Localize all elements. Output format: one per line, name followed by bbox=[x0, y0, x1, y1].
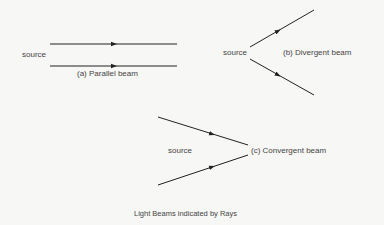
source-label-b: source bbox=[223, 48, 247, 57]
parallel-rays bbox=[50, 44, 177, 66]
ray-diagram-canvas bbox=[0, 0, 384, 225]
figure-caption: Light Beams indicated by Rays bbox=[134, 209, 237, 218]
panel-title-c: (c) Convergent beam bbox=[251, 146, 326, 155]
source-label-c: source bbox=[168, 146, 192, 155]
panel-title-b: (b) Divergent beam bbox=[283, 48, 351, 57]
panel-title-a: (a) Parallel beam bbox=[77, 69, 138, 78]
source-label-a: source bbox=[22, 50, 46, 59]
